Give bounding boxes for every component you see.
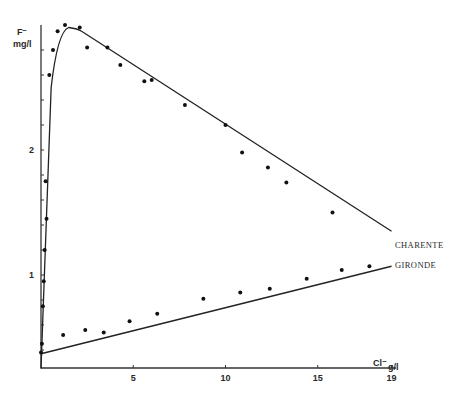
y-axis-label-ion: F⁻ — [17, 27, 28, 37]
data-point — [85, 46, 89, 50]
series-label: CHARENTE — [395, 240, 444, 250]
data-point — [183, 103, 187, 107]
data-point — [51, 48, 55, 52]
data-point — [340, 268, 344, 272]
chart: 12 5101519 F⁻ mg/l Cl⁻ g/l CHARENTEGIRON… — [0, 0, 456, 401]
data-point — [45, 217, 49, 221]
data-point — [268, 287, 272, 291]
series-labels: CHARENTEGIRONDE — [395, 240, 444, 270]
data-point — [42, 279, 46, 283]
data-point — [305, 277, 309, 281]
data-point — [43, 248, 47, 252]
series-charente — [41, 23, 392, 369]
data-point — [39, 351, 43, 355]
data-point — [83, 328, 87, 332]
x-axis-label-unit: g/l — [388, 362, 399, 372]
data-point — [61, 333, 65, 337]
data-point — [47, 73, 51, 77]
data-point — [150, 78, 154, 82]
data-point — [105, 46, 109, 50]
data-point — [284, 181, 288, 185]
data-point — [40, 342, 44, 346]
data-point — [44, 179, 48, 183]
data-point — [224, 123, 228, 127]
data-point — [41, 304, 45, 308]
data-point — [367, 264, 371, 268]
fit-line — [41, 28, 392, 369]
y-tick-label: 1 — [29, 270, 34, 280]
data-point — [102, 331, 106, 335]
data-point — [266, 166, 270, 170]
fit-line — [41, 266, 392, 354]
data-point — [118, 63, 122, 67]
x-tick-label: 5 — [131, 373, 136, 383]
data-point — [56, 29, 60, 33]
series-label: GIRONDE — [395, 260, 436, 270]
y-axis-label-unit: mg/l — [13, 39, 32, 49]
x-axis-label-ion: Cl⁻ — [373, 358, 387, 368]
data-point — [63, 23, 67, 27]
y-tick-label: 2 — [29, 145, 34, 155]
data-point — [240, 151, 244, 155]
data-point — [128, 319, 132, 323]
data-point — [238, 291, 242, 295]
x-tick-label: 15 — [313, 373, 323, 383]
series-gironde — [39, 264, 392, 354]
data-point — [142, 79, 146, 83]
data-point — [78, 26, 82, 30]
series-layer — [39, 23, 392, 369]
data-point — [331, 211, 335, 215]
data-point — [155, 312, 159, 316]
data-point — [201, 297, 205, 301]
x-tick-label: 10 — [220, 373, 230, 383]
x-tick-label: 19 — [387, 373, 397, 383]
